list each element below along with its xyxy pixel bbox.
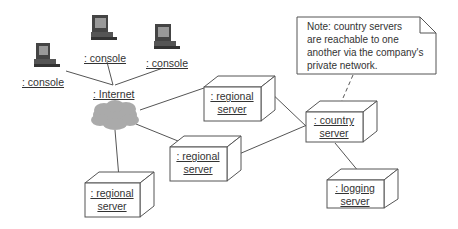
console2-label: : console bbox=[84, 52, 126, 65]
regional3-label: : regionalserver bbox=[86, 187, 138, 212]
note-text: Note: country servers are reachable to o… bbox=[307, 20, 423, 72]
logging-label: : loggingserver bbox=[329, 182, 381, 207]
edge-internet-regional2 bbox=[136, 124, 178, 141]
edge-internet-regional3 bbox=[115, 130, 119, 178]
internet-cloud-icon bbox=[91, 100, 139, 130]
edge-country-logging bbox=[335, 143, 359, 172]
console1-label: : console bbox=[22, 76, 64, 89]
edge-regional2-country bbox=[232, 125, 307, 157]
console3-computer-icon bbox=[154, 24, 180, 49]
internet-label: : Internet bbox=[93, 88, 134, 101]
regional2-label: : regionalserver bbox=[172, 150, 224, 175]
regional1-label: : regionalserver bbox=[206, 90, 258, 115]
console3-label: : console bbox=[146, 57, 188, 70]
country-label: : countryserver bbox=[308, 114, 360, 139]
edge-internet-regional1 bbox=[140, 88, 204, 110]
edge-console3-internet bbox=[115, 68, 163, 85]
edge-console2-internet bbox=[107, 62, 113, 85]
console1-computer-icon bbox=[34, 43, 60, 67]
console2-computer-icon bbox=[91, 15, 117, 40]
edge-console1-internet bbox=[66, 71, 113, 85]
